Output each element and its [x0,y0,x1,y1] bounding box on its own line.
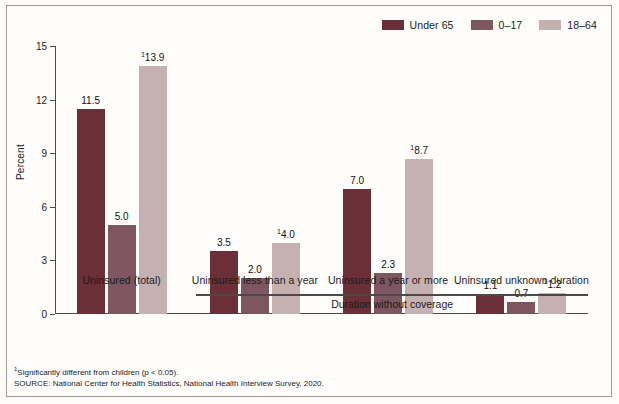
bar: 1.1 [476,294,504,314]
duration-bracket [196,294,588,296]
legend-item-2[interactable]: 18–64 [539,19,597,31]
y-axis-label: Percent [15,144,26,180]
bar-value-label: 3.5 [217,237,231,248]
x-axis-group-label: Uninsured unknown duration [454,274,589,286]
legend-item-0[interactable]: Under 65 [382,19,454,31]
legend-label: 0–17 [499,19,523,31]
legend-label: Under 65 [410,19,454,31]
y-axis-line [55,46,56,314]
y-axis-tick [50,153,55,154]
y-axis-tick-label: 3 [41,255,47,266]
footnote-significance: 1Significantly different from children (… [14,367,324,379]
significance-marker: 1 [410,143,414,150]
y-axis-tick [50,314,55,315]
bar-value-label: 11.5 [81,95,100,106]
chart-legend: Under 650–1718–64 [382,19,597,31]
legend-label: 18–64 [567,19,597,31]
bar-value-label: 2.3 [381,259,395,270]
legend-swatch-icon [539,20,561,30]
bar-value-label: 14.0 [277,229,295,240]
y-axis-tick [50,100,55,101]
y-axis-tick-label: 15 [36,41,47,52]
legend-swatch-icon [471,20,493,30]
bar-value-label: 5.0 [115,211,129,222]
y-axis-tick [50,207,55,208]
x-axis-group-label: Uninsured less than a year [192,274,318,286]
y-axis-tick-label: 9 [41,148,47,159]
footnote-significance-text: Significantly different from children (p… [17,368,178,377]
y-axis-tick [50,260,55,261]
significance-marker: 1 [141,50,145,57]
bar: 18.7 [405,159,433,314]
bar-value-label: 18.7 [410,145,428,156]
bar: 0.7 [507,302,535,315]
y-axis-tick-label: 6 [41,201,47,212]
bar-value-label: 113.9 [141,52,164,63]
x-axis-group-label: Uninsured a year or more [328,274,448,286]
footnote-source: SOURCE: National Center for Health Stati… [14,378,324,390]
x-axis-label: Duration without coverage [331,298,453,310]
legend-swatch-icon [382,20,404,30]
y-axis-tick [50,46,55,47]
footnotes: 1Significantly different from children (… [14,367,324,390]
chart-figure: Under 650–1718–64 Percent 0369121511.55.… [0,0,619,404]
bar-value-label: 0.7 [514,288,528,299]
bar: 11.2 [538,293,566,314]
bar-value-label: 7.0 [350,175,364,186]
x-axis-group-label: Uninsured (total) [82,274,160,286]
bar: 5.0 [108,225,136,314]
legend-item-1[interactable]: 0–17 [471,19,523,31]
y-axis-tick-label: 12 [36,94,47,105]
significance-marker: 1 [277,227,281,234]
y-axis-tick-label: 0 [41,309,47,320]
